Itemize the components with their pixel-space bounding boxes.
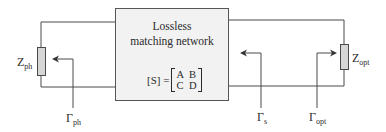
left-top-wire [41, 22, 115, 47]
gamma-s-label: Γs [257, 111, 267, 126]
resistor-zopt-icon [341, 45, 349, 70]
gamma-opt-label-main: Γ [309, 110, 316, 124]
gamma-s-label-sub: s [264, 117, 267, 126]
matrix-lhs: [S] = [147, 74, 169, 86]
right-top-wire [229, 20, 344, 44]
left-bottom-wire [41, 75, 115, 87]
gamma-opt-label: Γopt [309, 111, 326, 126]
circuit-diagram [0, 0, 386, 132]
zopt-label: Zopt [352, 52, 370, 67]
matrix-cells: A B C D [175, 69, 197, 91]
right-bottom-wire [229, 69, 344, 86]
gamma-ph-label: Γph [66, 112, 81, 127]
gamma-ph-arrow-icon [56, 59, 73, 108]
gamma-opt-arrow-icon [317, 53, 333, 108]
gamma-ph-label-main: Γ [66, 111, 73, 125]
matrix-cell-b: B [189, 69, 197, 80]
gamma-opt-label-sub: opt [316, 117, 326, 126]
gamma-ph-label-sub: ph [73, 118, 81, 127]
zopt-label-sub: opt [359, 58, 369, 67]
box-title-line1: Lossless [115, 21, 229, 33]
zph-label: Zph [17, 56, 32, 71]
matrix-cell-a: A [176, 69, 184, 80]
matrix-cell-d: D [189, 80, 197, 91]
zph-label-sub: ph [24, 62, 32, 71]
gamma-s-arrow-icon [244, 53, 261, 108]
gamma-s-label-main: Γ [257, 110, 264, 124]
resistor-zph-icon [38, 48, 46, 76]
box-title-line2: matching network [115, 36, 229, 48]
s-matrix: [S] = A B C D [147, 68, 202, 92]
matrix-cell-c: C [176, 80, 184, 91]
matrix-right-bracket [198, 68, 202, 92]
